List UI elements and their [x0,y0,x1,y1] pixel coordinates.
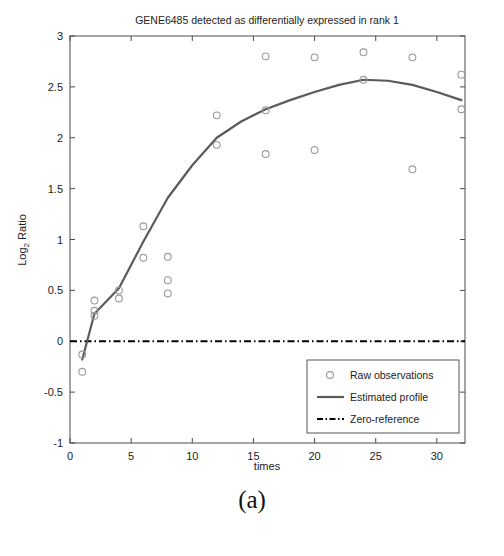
x-tick-label: 10 [186,450,198,462]
y-axis-tick-labels: -1-0.500.511.522.53 [44,30,63,449]
raw-observation-marker [311,54,318,61]
raw-observation-marker [164,290,171,297]
legend-label-raw-observations: Raw observations [350,369,433,381]
raw-observation-marker [458,71,465,78]
legend-label-estimated-profile: Estimated profile [350,391,428,403]
x-tick-label: 0 [67,450,73,462]
y-tick-label: 3 [57,30,63,42]
raw-observation-marker [91,297,98,304]
raw-observation-marker [311,147,318,154]
y-axis-title-rest: Ratio [16,214,28,243]
raw-observation-marker [164,253,171,260]
raw-observation-marker [262,151,269,158]
x-tick-label: 20 [308,450,320,462]
figure-container: GENE6485 detected as differentially expr… [0,0,504,556]
chart-svg: GENE6485 detected as differentially expr… [0,0,504,480]
legend-label-zero-reference: Zero-reference [350,413,420,425]
x-tick-label: 25 [370,450,382,462]
chart-legend: Raw observations Estimated profile Zero-… [307,360,459,433]
x-tick-label: 5 [128,450,134,462]
raw-observation-marker [164,277,171,284]
chart-title: GENE6485 detected as differentially expr… [135,14,399,26]
y-axis-title-text: Log2 Ratio [16,214,31,266]
y-tick-label: 2.5 [48,81,63,93]
y-axis-title-base: Log [16,247,28,265]
raw-observation-marker [140,223,147,230]
y-tick-label: 1.5 [48,183,63,195]
y-tick-label: -1 [53,437,63,449]
raw-observation-markers [79,49,465,375]
estimated-profile-line [82,80,461,360]
y-tick-label: -0.5 [44,386,63,398]
raw-observation-marker [213,141,220,148]
raw-observation-marker [213,112,220,119]
y-tick-label: 0.5 [48,284,63,296]
figure-caption: (a) [0,486,504,514]
y-axis-title: Log2 Ratio [16,214,31,266]
y-tick-label: 0 [57,335,63,347]
raw-observation-marker [409,54,416,61]
x-axis-title: times [254,460,281,472]
raw-observation-marker [360,49,367,56]
raw-observation-marker [458,106,465,113]
raw-observation-marker [140,254,147,261]
x-tick-label: 30 [431,450,443,462]
y-tick-label: 1 [57,234,63,246]
raw-observation-marker [409,166,416,173]
raw-observation-marker [262,53,269,60]
raw-observation-marker [79,368,86,375]
chart-plot-area: GENE6485 detected as differentially expr… [0,0,504,480]
y-tick-label: 2 [57,132,63,144]
raw-observation-marker [116,295,123,302]
